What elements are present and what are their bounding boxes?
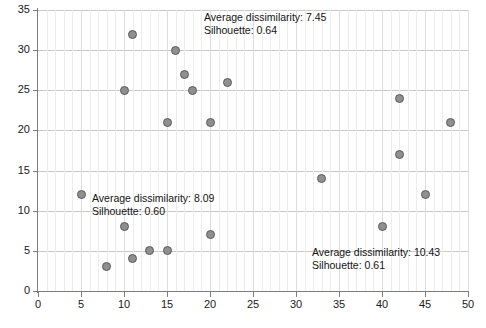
data-point xyxy=(378,222,387,231)
gridline-vertical-minor xyxy=(115,10,116,291)
data-point xyxy=(421,190,430,199)
x-axis-tick-label: 30 xyxy=(281,299,311,310)
y-axis-tick xyxy=(33,211,38,212)
gridline-vertical-minor xyxy=(133,10,134,291)
y-axis-tick xyxy=(33,171,38,172)
data-point xyxy=(206,118,215,127)
data-point xyxy=(128,254,137,263)
data-point xyxy=(188,86,197,95)
x-axis-tick-label: 50 xyxy=(453,299,483,310)
gridline-vertical-minor xyxy=(107,10,108,291)
gridline-vertical-minor xyxy=(305,10,306,291)
x-axis-tick xyxy=(296,292,297,297)
data-point xyxy=(163,246,172,255)
y-axis-tick xyxy=(33,50,38,51)
gridline-vertical-minor xyxy=(98,10,99,291)
annotation-silhouette: Silhouette: 0.64 xyxy=(204,24,326,37)
data-point xyxy=(102,262,111,271)
x-axis-tick xyxy=(253,292,254,297)
x-axis-tick-label: 20 xyxy=(195,299,225,310)
annotation-dissimilarity: Average dissimilarity: 7.45 xyxy=(204,11,326,24)
x-axis-tick-label: 0 xyxy=(23,299,53,310)
data-point xyxy=(163,118,172,127)
gridline-vertical xyxy=(81,10,82,291)
annotation-dissimilarity: Average dissimilarity: 10.43 xyxy=(312,246,440,259)
y-axis-tick-label: 35 xyxy=(0,4,30,15)
y-axis-tick-label: 10 xyxy=(0,205,30,216)
y-axis-tick xyxy=(33,90,38,91)
gridline-vertical-minor xyxy=(459,10,460,291)
gridline-vertical-minor xyxy=(262,10,263,291)
data-point xyxy=(120,222,129,231)
gridline-vertical-minor xyxy=(193,10,194,291)
y-axis-tick-label: 0 xyxy=(0,285,30,296)
gridline-vertical-minor xyxy=(55,10,56,291)
x-axis-tick xyxy=(339,292,340,297)
gridline-vertical-minor xyxy=(227,10,228,291)
x-axis-tick-label: 25 xyxy=(238,299,268,310)
data-point xyxy=(120,86,129,95)
x-axis-tick-label: 40 xyxy=(367,299,397,310)
gridline-vertical xyxy=(468,10,469,291)
data-point xyxy=(145,246,154,255)
gridline-vertical-minor xyxy=(201,10,202,291)
data-point xyxy=(395,94,404,103)
y-axis-tick xyxy=(33,10,38,11)
x-axis-tick xyxy=(210,292,211,297)
x-axis-tick-label: 5 xyxy=(66,299,96,310)
x-axis-tick-label: 15 xyxy=(152,299,182,310)
data-point xyxy=(446,118,455,127)
gridline-vertical-minor xyxy=(219,10,220,291)
x-axis-tick xyxy=(124,292,125,297)
cluster-annotation: Average dissimilarity: 8.09Silhouette: 0… xyxy=(92,192,214,217)
gridline-vertical xyxy=(124,10,125,291)
y-axis-tick-label: 5 xyxy=(0,245,30,256)
gridline-vertical-minor xyxy=(64,10,65,291)
x-axis-tick xyxy=(382,292,383,297)
scatter-plot-figure: 0510152025303505101520253035404550Averag… xyxy=(0,0,486,328)
data-point xyxy=(171,46,180,55)
gridline-vertical-minor xyxy=(47,10,48,291)
x-axis-tick xyxy=(468,292,469,297)
gridline-vertical xyxy=(296,10,297,291)
data-point xyxy=(206,230,215,239)
gridline-vertical-minor xyxy=(244,10,245,291)
y-axis-tick-label: 25 xyxy=(0,84,30,95)
x-axis-tick xyxy=(425,292,426,297)
gridline-vertical-minor xyxy=(141,10,142,291)
x-axis-tick xyxy=(167,292,168,297)
gridline-vertical-minor xyxy=(451,10,452,291)
x-axis-tick-label: 35 xyxy=(324,299,354,310)
gridline-vertical-minor xyxy=(279,10,280,291)
annotation-silhouette: Silhouette: 0.60 xyxy=(92,205,214,218)
annotation-silhouette: Silhouette: 0.61 xyxy=(312,259,440,272)
gridline-vertical xyxy=(253,10,254,291)
cluster-annotation: Average dissimilarity: 10.43Silhouette: … xyxy=(312,246,440,271)
data-point xyxy=(77,190,86,199)
gridline-vertical-minor xyxy=(236,10,237,291)
cluster-annotation: Average dissimilarity: 7.45Silhouette: 0… xyxy=(204,11,326,36)
gridline-vertical-minor xyxy=(90,10,91,291)
y-axis-tick xyxy=(33,251,38,252)
gridline-vertical-minor xyxy=(72,10,73,291)
gridline-vertical-minor xyxy=(158,10,159,291)
gridline-vertical-minor xyxy=(270,10,271,291)
data-point xyxy=(128,30,137,39)
y-axis-tick-label: 15 xyxy=(0,165,30,176)
x-axis-tick-label: 10 xyxy=(109,299,139,310)
gridline-vertical-minor xyxy=(442,10,443,291)
gridline-vertical xyxy=(210,10,211,291)
x-axis-tick xyxy=(38,292,39,297)
gridline-vertical-minor xyxy=(287,10,288,291)
data-point xyxy=(223,78,232,87)
data-point xyxy=(180,70,189,79)
x-axis-tick xyxy=(81,292,82,297)
data-point xyxy=(317,174,326,183)
bottom-artifact xyxy=(0,316,486,328)
y-axis-tick-label: 30 xyxy=(0,44,30,55)
x-axis-tick-label: 45 xyxy=(410,299,440,310)
annotation-dissimilarity: Average dissimilarity: 8.09 xyxy=(92,192,214,205)
gridline-vertical-minor xyxy=(184,10,185,291)
data-point xyxy=(395,150,404,159)
y-axis-tick xyxy=(33,130,38,131)
